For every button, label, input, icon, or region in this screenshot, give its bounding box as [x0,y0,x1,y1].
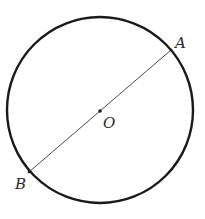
label-b: B [14,175,26,193]
label-o: O [103,114,115,132]
point-b [28,171,31,174]
center-point-o [98,109,102,113]
circle-diagram: A B O [0,0,205,219]
label-a: A [173,34,186,52]
point-a [170,49,173,52]
